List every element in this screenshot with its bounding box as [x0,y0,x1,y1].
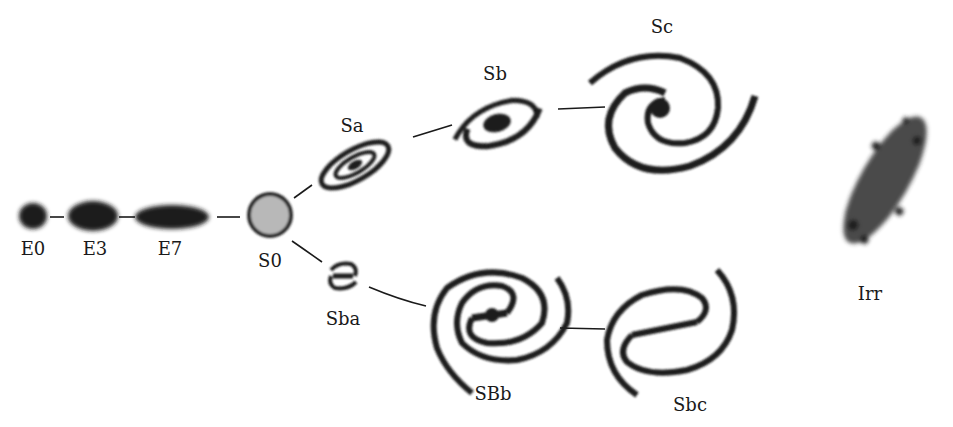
label-sba: Sba [326,310,361,328]
galaxy-irr [824,103,949,258]
label-sbc: Sbc [673,396,707,414]
galaxy-sba [330,264,356,289]
galaxy-e7 [135,205,209,229]
label-sb: Sb [483,65,507,83]
label-irr: Irr [858,285,882,303]
galaxy-e0 [19,203,47,229]
galaxy-sc [590,56,755,170]
label-e3: E3 [83,240,108,258]
label-e0: E0 [21,240,46,258]
label-sc: Sc [651,18,673,36]
label-s0: S0 [258,252,282,270]
label-sbb: SBb [474,385,511,403]
galaxy-sbc [607,270,734,395]
galaxy-e3 [68,201,118,231]
galaxy-s0 [249,194,291,236]
galaxy-sbb [434,272,569,393]
connector-lines [50,107,605,329]
label-sa: Sa [340,117,363,135]
label-e7: E7 [158,240,183,258]
galaxy-sb [449,93,546,154]
tuning-fork-diagram [0,0,953,427]
galaxy-sa [315,133,396,197]
